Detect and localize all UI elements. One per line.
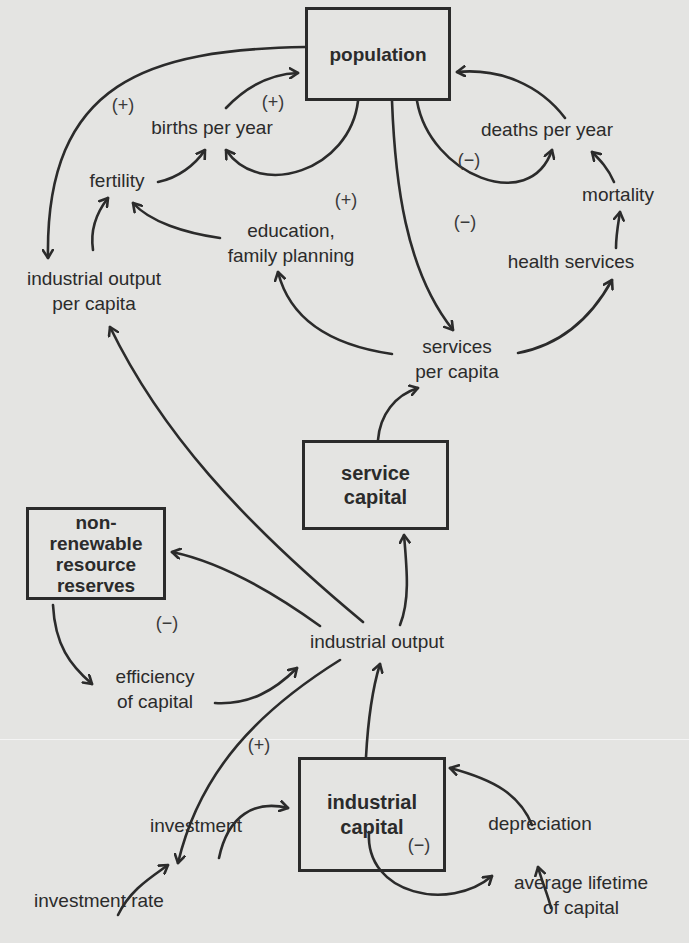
lifetime-line1: average lifetime bbox=[514, 870, 648, 895]
arrow-io-to-servicecap bbox=[400, 535, 407, 625]
label-health-services: health services bbox=[508, 249, 635, 274]
label-births-per-year: births per year bbox=[151, 115, 272, 140]
label-fertility: fertility bbox=[90, 168, 145, 193]
arrow-fertility-to-births bbox=[158, 150, 205, 182]
arrow-health-to-mortality bbox=[616, 212, 620, 248]
arrow-deaths-to-population bbox=[457, 71, 565, 118]
label-education: education, family planning bbox=[228, 218, 355, 268]
label-industrial-output: industrial output bbox=[310, 629, 444, 654]
resources-line3: resource bbox=[56, 554, 136, 575]
sign-deaths-loop: (−) bbox=[458, 150, 481, 170]
sign-resources-loop: (−) bbox=[156, 613, 179, 633]
efficiency-line2: of capital bbox=[116, 689, 195, 714]
service-capital-line1: service bbox=[341, 461, 410, 485]
arrow-servicecap-to-spc bbox=[378, 388, 418, 440]
sign-depreciation-loop: (−) bbox=[408, 835, 431, 855]
efficiency-line1: efficiency bbox=[116, 664, 195, 689]
resources-line4: reserves bbox=[57, 575, 135, 596]
lifetime-line2: of capital bbox=[514, 895, 648, 920]
arrow-spc-to-education bbox=[278, 272, 392, 354]
iopc-line1: industrial output bbox=[27, 266, 161, 291]
sign-health-loop: (−) bbox=[454, 212, 477, 232]
arrow-resources-to-efficiency bbox=[53, 605, 92, 684]
stock-service-capital: service capital bbox=[302, 440, 449, 530]
industrial-capital-line2: capital bbox=[340, 815, 403, 840]
industrial-capital-line1: industrial bbox=[327, 790, 417, 815]
arrow-education-to-fertility bbox=[133, 203, 220, 238]
world-model-diagram: population service capital non- renewabl… bbox=[0, 0, 689, 943]
arrow-iopc-to-fertility bbox=[92, 198, 108, 250]
sign-pop-iopc: (+) bbox=[112, 95, 135, 115]
spc-line2: per capita bbox=[415, 359, 498, 384]
spc-line1: services bbox=[415, 334, 498, 359]
label-investment: investment bbox=[150, 813, 242, 838]
arrow-indcap-to-io bbox=[366, 664, 380, 757]
arrow-mortality-to-deaths bbox=[592, 152, 614, 182]
population-label: population bbox=[329, 44, 426, 65]
stock-nonrenewable-resources: non- renewable resource reserves bbox=[26, 507, 166, 600]
sign-investment-loop: (+) bbox=[248, 735, 271, 755]
label-services-per-capita: services per capita bbox=[415, 334, 498, 384]
resources-line1: non- bbox=[75, 512, 116, 533]
label-investment-rate: investment rate bbox=[34, 888, 164, 913]
education-line1: education, bbox=[228, 218, 355, 243]
label-deaths-per-year: deaths per year bbox=[481, 117, 613, 142]
service-capital-line2: capital bbox=[344, 485, 407, 509]
resources-line2: renewable bbox=[50, 533, 143, 554]
arrow-spc-to-health bbox=[518, 280, 612, 353]
sign-education-loop: (+) bbox=[335, 190, 358, 210]
label-depreciation: depreciation bbox=[488, 811, 592, 836]
label-average-lifetime-of-capital: average lifetime of capital bbox=[514, 870, 648, 920]
label-mortality: mortality bbox=[582, 182, 654, 207]
arrow-io-to-resources bbox=[172, 552, 320, 626]
label-efficiency-of-capital: efficiency of capital bbox=[116, 664, 195, 714]
sign-births-loop: (+) bbox=[262, 92, 285, 112]
arrow-population-to-spc bbox=[392, 101, 453, 330]
education-line2: family planning bbox=[228, 243, 355, 268]
iopc-line2: per capita bbox=[27, 291, 161, 316]
label-industrial-output-per-capita: industrial output per capita bbox=[27, 266, 161, 316]
stock-population: population bbox=[305, 7, 451, 101]
